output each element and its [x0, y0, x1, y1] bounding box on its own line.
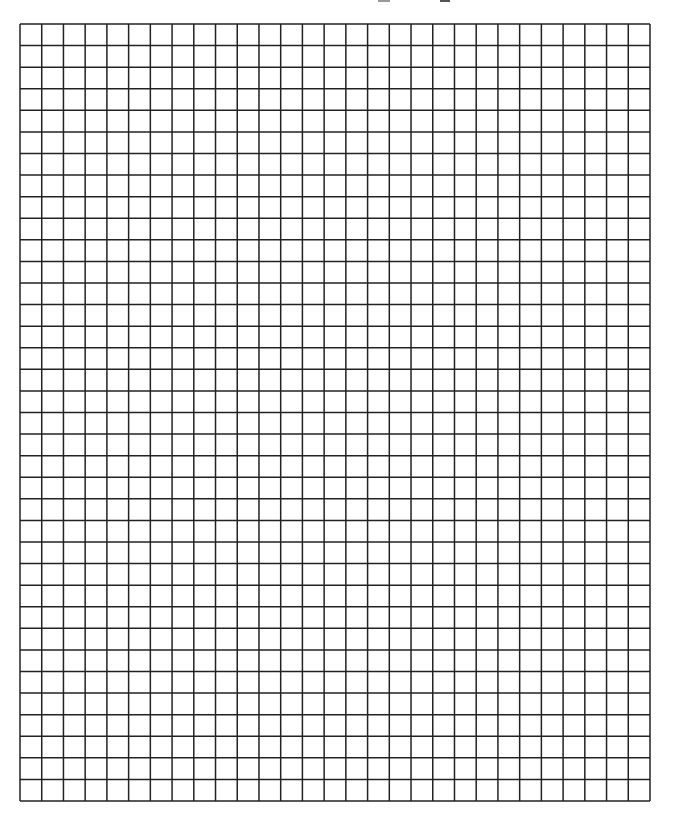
header-fragment — [378, 0, 390, 2]
grid-lines — [18, 22, 652, 803]
graph-paper-grid — [20, 24, 652, 803]
header-fragment — [440, 0, 450, 2]
cut-off-header-fragments — [0, 0, 673, 6]
